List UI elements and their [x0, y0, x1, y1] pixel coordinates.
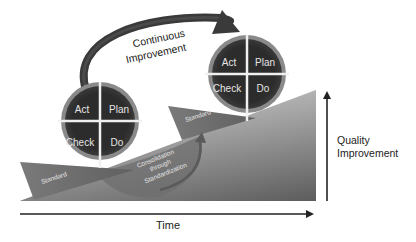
pdca1-check: Check — [66, 137, 95, 148]
pdca-diagram: Continuous Improvement Act Plan Check Do… — [0, 0, 416, 242]
pdca2-do: Do — [257, 83, 270, 94]
pdca2-plan: Plan — [255, 57, 275, 68]
arc-label: Continuous Improvement — [122, 27, 189, 66]
time-axis — [20, 210, 314, 218]
quality-axis-label-line-1: Quality — [337, 134, 370, 146]
pdca2-check: Check — [213, 83, 242, 94]
pdca-cycle-1: Act Plan Check Do — [58, 82, 142, 168]
pdca1-plan: Plan — [109, 104, 129, 115]
quality-axis-label-line-2: Improvement — [337, 147, 398, 159]
pdca1-do: Do — [111, 137, 124, 148]
pdca1-act: Act — [75, 104, 90, 115]
time-axis-label: Time — [156, 219, 180, 231]
quality-axis — [323, 91, 331, 201]
pdca2-act: Act — [222, 57, 237, 68]
